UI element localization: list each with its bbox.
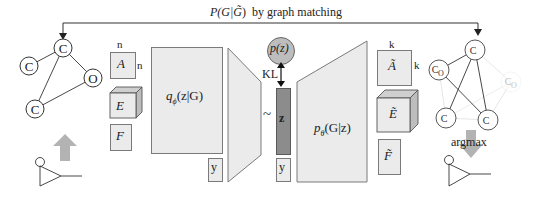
- graph-node: C: [478, 110, 498, 130]
- latent-z-label: z: [279, 111, 284, 126]
- dim-k-top: k: [389, 38, 395, 50]
- output-molecule-icon: [440, 153, 500, 198]
- input-molecule-icon: [30, 155, 90, 200]
- svg-text:O: O: [511, 81, 517, 90]
- input-graph: C C O C: [0, 0, 110, 120]
- title-g-tilde: G̃: [233, 5, 242, 19]
- decoder-label: pθ(G|z): [314, 120, 351, 138]
- graph-node: C: [26, 100, 44, 118]
- sample-tilde: ~: [263, 106, 271, 123]
- kl-label: KL: [262, 67, 278, 82]
- graph-node: C: [54, 39, 72, 57]
- svg-text:C: C: [25, 59, 34, 74]
- title-prob: P(G|: [210, 5, 233, 19]
- svg-text:C: C: [483, 115, 490, 126]
- graph-node: C: [465, 40, 485, 60]
- latent-condition-label: y: [279, 160, 285, 175]
- reconstructed-edge-label: Ẽ: [389, 106, 397, 122]
- dim-n-side: n: [137, 59, 143, 71]
- encoder-label: qϕ(z|G): [166, 88, 203, 106]
- svg-text:O: O: [438, 69, 444, 78]
- feature-label: F: [116, 128, 124, 144]
- encoder-condition-label: y: [211, 160, 217, 175]
- svg-text:C: C: [31, 102, 40, 117]
- graph-node: C: [436, 108, 456, 128]
- dim-n-top: n: [117, 38, 123, 50]
- title-close: ): [242, 5, 246, 19]
- reconstructed-adjacency-label: Ã: [388, 58, 396, 74]
- graph-matching-label: P(G|G̃) by graph matching: [210, 5, 342, 20]
- edge-tensor-cube: [108, 84, 144, 120]
- svg-text:O: O: [88, 71, 97, 86]
- encoder-trapezoid: [225, 45, 265, 185]
- svg-text:C: C: [470, 45, 477, 56]
- title-suffix: by graph matching: [252, 5, 342, 19]
- encoder-args: (z|G): [177, 88, 203, 103]
- reconstructed-feature-label: F̃: [384, 148, 392, 164]
- decoder-args: (G|z): [324, 120, 350, 135]
- graph-node: C: [20, 57, 38, 75]
- prior-label: p(z): [270, 41, 289, 56]
- output-graph: C C O C O C C: [420, 30, 538, 135]
- graph-node: C O: [429, 60, 449, 80]
- argmax-label: argmax: [451, 135, 487, 150]
- graph-node: C O: [501, 72, 521, 92]
- graph-node: O: [84, 69, 102, 87]
- svg-text:C: C: [59, 41, 68, 56]
- adjacency-label: A: [117, 56, 125, 72]
- reconstructed-edge-cube: [375, 88, 421, 134]
- edge-label: E: [116, 98, 124, 114]
- dim-k-side: k: [414, 59, 420, 71]
- decoder-trapezoid: [295, 38, 370, 188]
- svg-text:C: C: [441, 113, 448, 124]
